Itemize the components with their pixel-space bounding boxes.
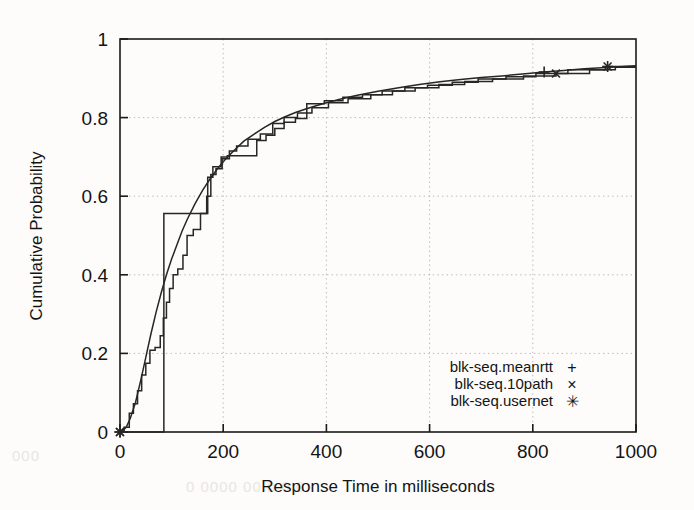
x-tick-label: 200 [207,441,239,462]
data-point-marker-asterisk [115,427,126,438]
chart-page: 000 0 0000 00 0 0 0 02004006008001000 00… [0,0,694,510]
y-tick-label: 0.4 [82,265,109,286]
x-axis-title: Response Time in milliseconds [261,477,494,496]
legend-label-1: blk-seq.10path [455,375,553,392]
legend-marker-0: + [567,359,576,376]
plot-border [120,39,636,432]
legend-marker-1: × [567,376,576,393]
y-tick-label: 0.8 [82,108,108,129]
x-tick-labels: 02004006008001000 [115,441,657,462]
x-tick-label: 800 [517,441,549,462]
data-point-marker-asterisk [602,61,613,72]
x-tick-label: 600 [414,441,446,462]
data-series [120,66,636,432]
legend: blk-seq.meanrtt+blk-seq.10path×blk-seq.u… [450,358,579,410]
plot-frame [120,39,636,432]
x-tick-label: 0 [115,441,126,462]
y-tick-label: 0 [97,422,108,443]
x-tick-label: 400 [311,441,343,462]
legend-label-2: blk-seq.usernet [450,392,553,409]
x-tick-label: 1000 [615,441,657,462]
series-line [120,66,636,432]
y-tick-labels: 00.20.40.60.81 [82,29,109,443]
legend-label-0: blk-seq.meanrtt [450,358,554,375]
series-line [120,67,636,432]
cdf-plot: 02004006008001000 00.20.40.60.81 Respons… [0,0,694,510]
y-tick-label: 0.6 [82,186,108,207]
grid-lines [120,39,636,432]
axis-ticks [120,39,636,432]
y-axis-title: Cumulative Probability [27,151,46,321]
y-tick-label: 0.2 [82,343,108,364]
series-line [120,67,636,432]
y-tick-label: 1 [97,29,108,50]
legend-marker-2: ✳ [566,393,579,410]
